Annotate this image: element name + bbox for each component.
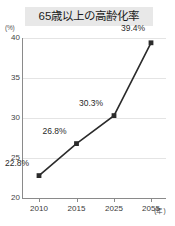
data-point-label: 39.4% bbox=[121, 23, 145, 33]
data-point-marker bbox=[149, 40, 154, 45]
data-series-line bbox=[0, 0, 175, 226]
data-point-label: 22.8% bbox=[5, 158, 29, 168]
series-polyline bbox=[39, 43, 151, 176]
data-point-marker bbox=[37, 173, 42, 178]
data-point-marker bbox=[112, 113, 117, 118]
data-point-label: 26.8% bbox=[42, 126, 66, 136]
data-point-label: 30.3% bbox=[79, 98, 103, 108]
data-point-marker bbox=[74, 141, 79, 146]
chart-container: 65歳以上の高齢化率 (%) 2025303540 20102015202520… bbox=[0, 0, 175, 226]
